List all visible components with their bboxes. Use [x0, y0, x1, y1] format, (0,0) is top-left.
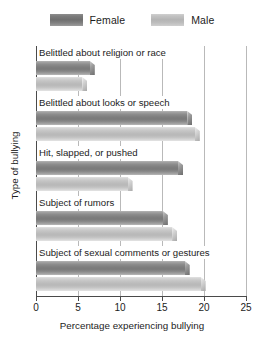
- bar-group: Hit, slapped, or pushed: [36, 146, 246, 196]
- bar-end-cap: [82, 77, 87, 91]
- bar-body: [36, 227, 172, 241]
- bar-body: [36, 211, 163, 225]
- plot-area: Belittled about religion or raceBelittle…: [36, 46, 246, 296]
- category-label: Hit, slapped, or pushed: [38, 146, 140, 159]
- bar-end-cap: [178, 161, 183, 175]
- bar-end-cap: [195, 127, 200, 141]
- x-tick-label: 20: [198, 302, 209, 313]
- x-axis-title: Percentage experiencing bullying: [0, 320, 264, 331]
- bar-female: [36, 261, 190, 275]
- bar-end-cap: [90, 61, 95, 75]
- bar-end-cap: [163, 211, 168, 225]
- x-tick-mark: [162, 296, 163, 301]
- x-tick-label: 25: [240, 302, 251, 313]
- bar-male: [36, 77, 87, 91]
- bar-female: [36, 161, 183, 175]
- x-tick-mark: [246, 296, 247, 301]
- bar-male: [36, 127, 200, 141]
- bar-body: [36, 277, 201, 291]
- category-label: Subject of rumors: [38, 196, 116, 209]
- x-tick-mark: [204, 296, 205, 301]
- x-tick-label: 10: [114, 302, 125, 313]
- bar-body: [36, 161, 178, 175]
- bar-end-cap: [187, 111, 192, 125]
- bar-group: Belittled about religion or race: [36, 46, 246, 96]
- legend-item-male: Male: [151, 14, 214, 26]
- category-label: Subject of sexual comments or gestures: [38, 246, 212, 259]
- bar-body: [36, 177, 128, 191]
- category-label: Belittled about religion or race: [38, 46, 168, 59]
- x-tick-label: 0: [33, 302, 39, 313]
- bar-body: [36, 261, 185, 275]
- bullying-bar-chart: Female Male Belittled about religion or …: [0, 0, 264, 342]
- bar-male: [36, 177, 133, 191]
- legend-swatch-female: [50, 14, 83, 26]
- bar-body: [36, 77, 82, 91]
- x-tick-mark: [120, 296, 121, 301]
- x-tick-label: 5: [75, 302, 81, 313]
- bar-group: Belittled about looks or speech: [36, 96, 246, 146]
- x-axis-line: [36, 296, 246, 297]
- bar-group: Subject of sexual comments or gestures: [36, 246, 246, 296]
- bar-end-cap: [201, 277, 206, 291]
- legend-label-male: Male: [191, 14, 214, 26]
- bar-male: [36, 227, 177, 241]
- chart-legend: Female Male: [0, 14, 264, 26]
- bar-female: [36, 111, 192, 125]
- bar-female: [36, 61, 95, 75]
- bar-body: [36, 61, 90, 75]
- bar-male: [36, 277, 206, 291]
- y-axis-title: Type of bullying: [9, 106, 20, 226]
- bar-end-cap: [128, 177, 133, 191]
- x-tick-label: 15: [156, 302, 167, 313]
- bar-group: Subject of rumors: [36, 196, 246, 246]
- legend-swatch-male: [151, 14, 184, 26]
- bar-end-cap: [185, 261, 190, 275]
- gridline: [246, 46, 247, 296]
- bar-body: [36, 127, 195, 141]
- bar-female: [36, 211, 168, 225]
- category-label: Belittled about looks or speech: [38, 96, 172, 109]
- legend-item-female: Female: [50, 14, 126, 26]
- x-tick-mark: [36, 296, 37, 301]
- bar-end-cap: [172, 227, 177, 241]
- x-tick-mark: [78, 296, 79, 301]
- bar-body: [36, 111, 187, 125]
- legend-label-female: Female: [90, 14, 126, 26]
